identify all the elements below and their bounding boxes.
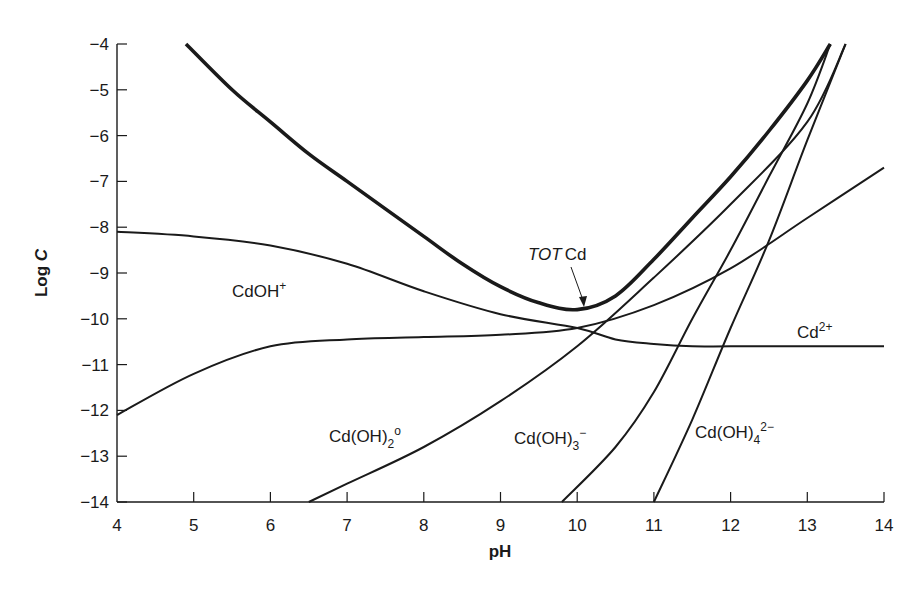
x-tick-label: 9 <box>496 516 505 535</box>
y-tick-label: −9 <box>90 264 109 283</box>
log-c-ph-chart: 4567891011121314 −4−5−6−7−8−9−10−11−12−1… <box>0 0 922 593</box>
y-ticks: −4−5−6−7−8−9−10−11−12−13−14 <box>80 35 127 512</box>
label-tot-cd: TOTCd <box>528 245 586 264</box>
x-tick-label: 7 <box>342 516 351 535</box>
x-tick-label: 5 <box>189 516 198 535</box>
y-tick-label: −6 <box>90 127 109 146</box>
label-cdoh: CdOH+ <box>232 279 286 301</box>
label-cdoh2: Cd(OH)2o <box>329 424 401 451</box>
x-tick-label: 8 <box>419 516 428 535</box>
x-tick-label: 4 <box>112 516 121 535</box>
y-tick-label: −11 <box>81 356 109 375</box>
x-tick-label: 6 <box>266 516 275 535</box>
y-tick-label: −7 <box>90 172 109 191</box>
x-tick-label: 10 <box>568 516 587 535</box>
x-tick-label: 13 <box>798 516 817 535</box>
y-tick-label: −14 <box>80 493 109 512</box>
arrow-head-icon <box>579 296 587 307</box>
y-axis-title: Log C <box>32 248 51 297</box>
series-labels: TOTCd CdOH+ Cd2+ Cd(OH)2o Cd(OH)3− Cd(OH… <box>232 245 832 453</box>
label-cdoh3: Cd(OH)3− <box>514 426 586 453</box>
x-axis-title: pH <box>489 542 512 561</box>
label-cdoh4: Cd(OH)42− <box>695 420 774 447</box>
y-tick-label: −10 <box>80 310 109 329</box>
x-ticks: 4567891011121314 <box>112 492 893 535</box>
y-tick-label: −13 <box>80 447 109 466</box>
y-tick-label: −8 <box>90 218 109 237</box>
series-line-tot-cd <box>186 44 830 310</box>
label-cd2: Cd2+ <box>797 320 832 342</box>
x-tick-label: 12 <box>721 516 740 535</box>
x-tick-label: 11 <box>645 516 663 535</box>
y-tick-label: −12 <box>80 401 109 420</box>
x-tick-label: 14 <box>875 516 894 535</box>
y-tick-label: −5 <box>90 81 109 100</box>
y-tick-label: −4 <box>90 35 109 54</box>
